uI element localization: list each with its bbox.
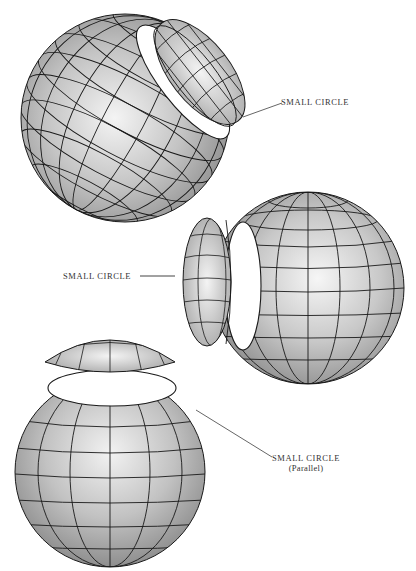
- small-circles-diagram: [0, 0, 416, 571]
- label-text: SMALL CIRCLE: [63, 271, 131, 281]
- globe-lateral-cut: [140, 192, 404, 384]
- globe-parallel-cut: [15, 325, 272, 567]
- label-small-circle-middle: SMALL CIRCLE: [63, 271, 131, 281]
- globe-cap-lateral: [183, 218, 231, 346]
- label-text: SMALL CIRCLE: [272, 453, 340, 463]
- globe-cap-parallel: [45, 325, 175, 375]
- label-small-circle-bottom: SMALL CIRCLE (Parallel): [272, 453, 340, 473]
- small-circle-cut-face: [48, 370, 176, 406]
- label-text: SMALL CIRCLE: [281, 97, 349, 107]
- label-subtext-parallel: (Parallel): [272, 463, 340, 473]
- label-small-circle-top: SMALL CIRCLE: [281, 97, 349, 107]
- leader-line-top: [243, 103, 282, 117]
- leader-line-bottom: [196, 410, 272, 457]
